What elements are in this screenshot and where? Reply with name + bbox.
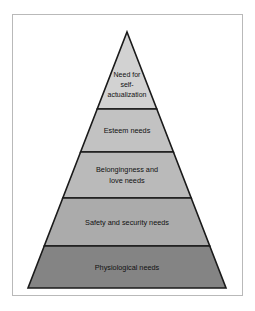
tier-label-self-actualization-line3: actualization: [108, 91, 147, 98]
tier-label-safety: Safety and security needs: [85, 218, 169, 227]
tier-label-physiological: Physiological needs: [95, 263, 160, 272]
maslow-pyramid-diagram: Need for self- actualization Esteem need…: [0, 0, 255, 311]
tier-label-esteem: Esteem needs: [104, 126, 151, 135]
tier-label-self-actualization-line2: self-: [120, 81, 134, 88]
tier-label-belongingness-line1: Belongingness and: [96, 165, 158, 174]
figure-root: Need for self- actualization Esteem need…: [0, 0, 255, 311]
tier-label-belongingness-line2: love needs: [109, 176, 145, 185]
tier-label-self-actualization-line1: Need for: [114, 71, 142, 78]
